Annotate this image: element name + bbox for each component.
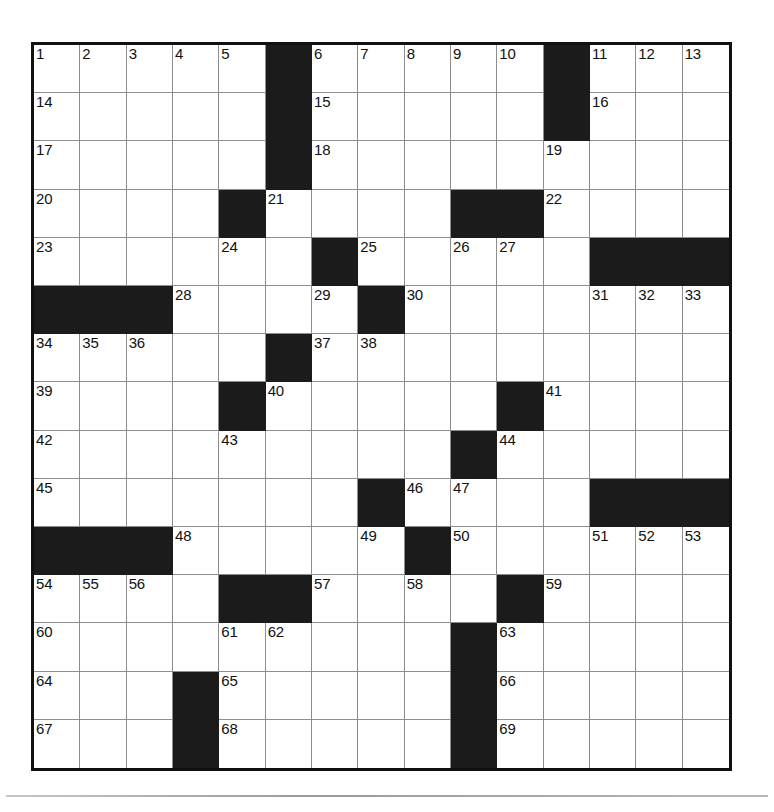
grid-cell[interactable] <box>219 334 265 382</box>
grid-cell[interactable]: 26 <box>451 238 497 286</box>
grid-cell[interactable]: 5 <box>219 45 265 93</box>
grid-cell[interactable]: 69 <box>497 720 543 768</box>
grid-cell[interactable] <box>266 479 312 527</box>
grid-cell[interactable]: 67 <box>34 720 80 768</box>
grid-cell[interactable] <box>127 479 173 527</box>
grid-cell[interactable] <box>544 334 590 382</box>
grid-cell[interactable]: 40 <box>266 382 312 430</box>
grid-cell[interactable] <box>80 93 126 141</box>
grid-cell[interactable]: 30 <box>405 286 451 334</box>
grid-cell[interactable] <box>219 93 265 141</box>
grid-cell[interactable]: 25 <box>358 238 404 286</box>
grid-cell[interactable]: 65 <box>219 672 265 720</box>
grid-cell[interactable]: 7 <box>358 45 404 93</box>
grid-cell[interactable] <box>80 382 126 430</box>
grid-cell[interactable] <box>683 623 729 671</box>
grid-cell[interactable] <box>312 527 358 575</box>
grid-cell[interactable] <box>219 141 265 189</box>
grid-cell[interactable] <box>127 93 173 141</box>
grid-cell[interactable] <box>590 575 636 623</box>
grid-cell[interactable] <box>636 575 682 623</box>
grid-cell[interactable] <box>127 672 173 720</box>
grid-cell[interactable]: 48 <box>173 527 219 575</box>
grid-cell[interactable] <box>127 720 173 768</box>
grid-cell[interactable]: 9 <box>451 45 497 93</box>
grid-cell[interactable] <box>173 93 219 141</box>
grid-cell[interactable]: 55 <box>80 575 126 623</box>
grid-cell[interactable] <box>358 190 404 238</box>
grid-cell[interactable]: 43 <box>219 431 265 479</box>
grid-cell[interactable] <box>266 238 312 286</box>
grid-cell[interactable] <box>497 479 543 527</box>
grid-cell[interactable]: 3 <box>127 45 173 93</box>
grid-cell[interactable] <box>173 382 219 430</box>
grid-cell[interactable] <box>451 575 497 623</box>
grid-cell[interactable] <box>127 382 173 430</box>
grid-cell[interactable] <box>497 527 543 575</box>
grid-cell[interactable] <box>266 672 312 720</box>
grid-cell[interactable]: 17 <box>34 141 80 189</box>
grid-cell[interactable] <box>683 431 729 479</box>
grid-cell[interactable] <box>497 93 543 141</box>
grid-cell[interactable]: 13 <box>683 45 729 93</box>
grid-cell[interactable] <box>451 93 497 141</box>
grid-cell[interactable]: 39 <box>34 382 80 430</box>
grid-cell[interactable]: 21 <box>266 190 312 238</box>
grid-cell[interactable] <box>312 720 358 768</box>
grid-cell[interactable] <box>358 672 404 720</box>
grid-cell[interactable]: 50 <box>451 527 497 575</box>
grid-cell[interactable] <box>405 382 451 430</box>
grid-cell[interactable] <box>683 334 729 382</box>
grid-cell[interactable] <box>358 141 404 189</box>
grid-cell[interactable] <box>636 720 682 768</box>
grid-cell[interactable]: 6 <box>312 45 358 93</box>
grid-cell[interactable]: 31 <box>590 286 636 334</box>
grid-cell[interactable] <box>405 93 451 141</box>
grid-cell[interactable]: 41 <box>544 382 590 430</box>
grid-cell[interactable]: 27 <box>497 238 543 286</box>
grid-cell[interactable]: 53 <box>683 527 729 575</box>
grid-cell[interactable] <box>405 672 451 720</box>
grid-cell[interactable] <box>358 93 404 141</box>
grid-cell[interactable]: 36 <box>127 334 173 382</box>
grid-cell[interactable] <box>405 623 451 671</box>
grid-cell[interactable] <box>80 720 126 768</box>
grid-cell[interactable] <box>451 286 497 334</box>
grid-cell[interactable] <box>173 334 219 382</box>
grid-cell[interactable] <box>312 479 358 527</box>
grid-cell[interactable] <box>590 672 636 720</box>
grid-cell[interactable] <box>544 479 590 527</box>
grid-cell[interactable]: 63 <box>497 623 543 671</box>
grid-cell[interactable] <box>636 431 682 479</box>
grid-cell[interactable] <box>590 382 636 430</box>
grid-cell[interactable]: 62 <box>266 623 312 671</box>
grid-cell[interactable]: 54 <box>34 575 80 623</box>
grid-cell[interactable]: 64 <box>34 672 80 720</box>
grid-cell[interactable]: 49 <box>358 527 404 575</box>
grid-cell[interactable]: 42 <box>34 431 80 479</box>
grid-cell[interactable] <box>544 720 590 768</box>
grid-cell[interactable] <box>80 623 126 671</box>
grid-cell[interactable] <box>636 672 682 720</box>
grid-cell[interactable] <box>683 93 729 141</box>
grid-cell[interactable]: 46 <box>405 479 451 527</box>
grid-cell[interactable] <box>358 623 404 671</box>
grid-cell[interactable]: 51 <box>590 527 636 575</box>
grid-cell[interactable] <box>405 190 451 238</box>
grid-cell[interactable]: 32 <box>636 286 682 334</box>
grid-cell[interactable] <box>683 720 729 768</box>
grid-cell[interactable]: 52 <box>636 527 682 575</box>
grid-cell[interactable]: 56 <box>127 575 173 623</box>
grid-cell[interactable]: 44 <box>497 431 543 479</box>
grid-cell[interactable]: 15 <box>312 93 358 141</box>
grid-cell[interactable] <box>80 672 126 720</box>
grid-cell[interactable] <box>266 527 312 575</box>
grid-cell[interactable]: 19 <box>544 141 590 189</box>
grid-cell[interactable]: 47 <box>451 479 497 527</box>
grid-cell[interactable] <box>636 93 682 141</box>
grid-cell[interactable] <box>544 623 590 671</box>
grid-cell[interactable]: 18 <box>312 141 358 189</box>
grid-cell[interactable] <box>173 479 219 527</box>
grid-cell[interactable] <box>80 190 126 238</box>
grid-cell[interactable] <box>405 141 451 189</box>
